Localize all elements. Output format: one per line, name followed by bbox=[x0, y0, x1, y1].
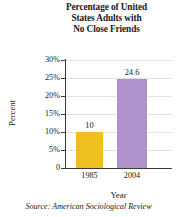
y-axis-title: Percent bbox=[7, 89, 17, 137]
y-tick-label-5: 5% bbox=[20, 146, 60, 154]
chart-title-line-3: No Close Friends bbox=[40, 24, 173, 35]
y-tick-label-20: 20% bbox=[20, 92, 60, 100]
bar-1985[interactable] bbox=[76, 132, 103, 168]
x-tick-label-1985: 1985 bbox=[70, 171, 110, 180]
y-tick-label-30: 30% bbox=[20, 56, 60, 64]
chart-title-line-1: Percentage of United bbox=[40, 2, 173, 13]
y-tick-label-10: 10% bbox=[20, 128, 60, 136]
chart-title: Percentage of United States Adults with … bbox=[40, 2, 173, 34]
bar-chart: Percentage of United States Adults with … bbox=[0, 0, 177, 217]
x-axis-line bbox=[65, 168, 172, 169]
bar-value-1985: 10 bbox=[70, 121, 110, 130]
bar-2004[interactable] bbox=[117, 79, 147, 168]
x-axis-title: Year bbox=[65, 190, 172, 200]
source-note: Source: American Sociological Review bbox=[0, 202, 177, 211]
x-tick-label-2004: 2004 bbox=[112, 171, 152, 180]
y-tick-label-15: 15% bbox=[20, 110, 60, 118]
y-tick-label-0: 0 bbox=[20, 164, 60, 172]
chart-title-line-2: States Adults with bbox=[40, 13, 173, 24]
y-tick-label-25: 25% bbox=[20, 74, 60, 82]
y-axis-line bbox=[65, 59, 66, 169]
bar-value-2004: 24.6 bbox=[112, 68, 152, 77]
